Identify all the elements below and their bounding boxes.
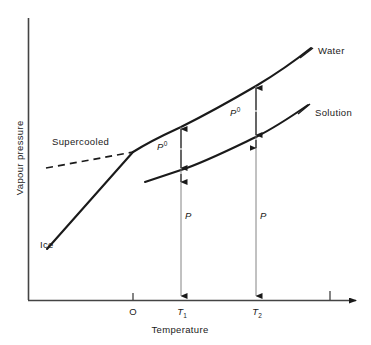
- plot-canvas: [0, 0, 371, 345]
- p-label-t2: P: [260, 211, 267, 221]
- solution-label-leader: [298, 104, 310, 114]
- vapour-pressure-diagram: Vapour pressure Temperature Water Soluti…: [0, 0, 371, 345]
- x-tick-label-t2-subscript: 2: [258, 312, 262, 319]
- x-tick-label-t1: T1: [173, 306, 191, 319]
- x-axis-title: Temperature: [140, 325, 220, 335]
- water-label-leader: [300, 48, 313, 58]
- p0-label-t1-base: P: [157, 141, 164, 152]
- p0-label-t2-base: P: [230, 107, 237, 118]
- ice-curve: [47, 152, 133, 249]
- p0-label-t2-superscript: 0: [237, 106, 241, 113]
- supercooled-curve-label: Supercooled: [52, 137, 109, 147]
- p-label-t1: P: [185, 211, 192, 221]
- water-curve: [133, 48, 311, 152]
- p0-label-t1: P0: [157, 141, 167, 152]
- x-tick-label-origin: O: [127, 306, 139, 317]
- solution-curve: [145, 105, 308, 182]
- ice-curve-label: Ice: [40, 240, 54, 250]
- p0-label-t2: P0: [230, 107, 240, 118]
- y-axis-title: Vapour pressure: [15, 108, 25, 208]
- solution-curve-label: Solution: [315, 108, 352, 118]
- water-curve-label: Water: [318, 46, 345, 56]
- x-tick-label-t2: T2: [248, 306, 266, 319]
- x-tick-label-t1-subscript: 1: [183, 312, 187, 319]
- p0-label-t1-superscript: 0: [164, 140, 168, 147]
